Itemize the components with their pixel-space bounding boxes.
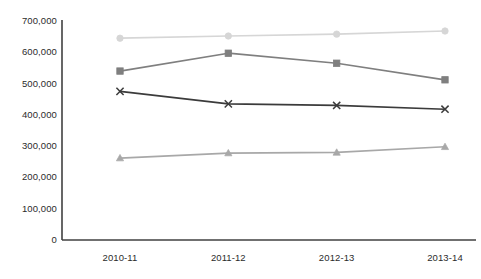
- series-line-1: [120, 31, 445, 38]
- y-axis-tick-label: 600,000: [22, 47, 57, 57]
- y-axis-tick-label: 0: [52, 235, 57, 245]
- series-line-4: [120, 147, 445, 158]
- chart-series-layer: [116, 28, 448, 161]
- y-axis-tick-label: 300,000: [22, 141, 57, 151]
- series-line-2: [120, 53, 445, 80]
- x-axis-tick-label: 2011-12: [188, 252, 268, 263]
- data-point-marker: [225, 33, 231, 39]
- y-axis-tick-label: 100,000: [22, 204, 57, 214]
- chart-plot-area: [0, 0, 481, 279]
- data-point-marker: [117, 35, 123, 41]
- y-axis-tick-label: 700,000: [22, 16, 57, 26]
- x-axis-tick-label: 2010-11: [80, 252, 160, 263]
- series-4-triangle: [116, 143, 448, 161]
- series-2-square: [117, 50, 448, 83]
- series-1-circle: [117, 28, 448, 42]
- data-point-marker: [442, 77, 448, 83]
- x-axis-tick-label: 2012-13: [297, 252, 377, 263]
- series-3-x: [116, 88, 448, 113]
- x-axis-tick-label: 2013-14: [405, 252, 481, 263]
- data-point-marker: [333, 31, 339, 37]
- data-point-marker: [225, 50, 231, 56]
- data-point-marker: [117, 68, 123, 74]
- chart-axes: [62, 20, 476, 240]
- line-chart: 700,000600,000500,000400,000300,000200,0…: [0, 0, 481, 279]
- y-axis-tick-label: 400,000: [22, 110, 57, 120]
- data-point-marker: [442, 28, 448, 34]
- y-axis-tick-label: 200,000: [22, 172, 57, 182]
- data-point-marker: [333, 60, 339, 66]
- series-line-3: [120, 91, 445, 109]
- y-axis-tick-label: 500,000: [22, 79, 57, 89]
